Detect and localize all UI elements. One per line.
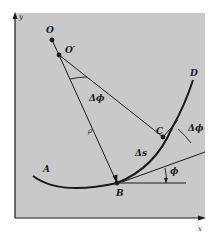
diagram-panel [15, 13, 205, 218]
label-rho: ρ [87, 127, 93, 135]
label-b: B [115, 188, 124, 198]
label-c: C [156, 126, 164, 136]
point-b [115, 181, 120, 186]
label-delta-phi-tangent: Δϕ [187, 123, 204, 133]
label-d: D [189, 68, 198, 78]
label-delta-phi-center: Δϕ [88, 93, 105, 103]
x-axis-label: x [198, 225, 202, 233]
label-o-prime: O′ [65, 45, 76, 55]
label-a: A [42, 164, 50, 174]
curvature-diagram: y x O O′ A B C D Δϕ ρ [0, 0, 216, 236]
label-delta-s: Δs [134, 148, 147, 158]
point-o [50, 38, 55, 43]
label-o: O [46, 25, 54, 35]
label-phi: ϕ [170, 166, 179, 176]
point-o-prime [57, 53, 62, 58]
